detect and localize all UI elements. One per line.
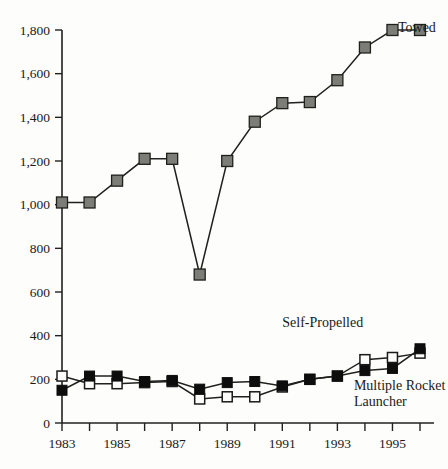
data-point-marker — [360, 366, 370, 376]
x-tick-label: 1985 — [104, 436, 131, 451]
data-point-marker — [250, 392, 260, 402]
chart-canvas: 02004006008001,0001,2001,4001,6001,800 1… — [0, 0, 448, 469]
y-tick-label: 1,000 — [20, 197, 51, 212]
x-tick-label: 1983 — [49, 436, 76, 451]
series-towed — [57, 25, 426, 281]
data-point-marker — [167, 375, 177, 385]
data-point-marker — [194, 269, 205, 280]
x-tick-label: 1989 — [214, 436, 241, 451]
data-point-marker — [332, 371, 342, 381]
data-point-marker — [304, 97, 315, 108]
data-point-marker — [195, 394, 205, 404]
data-point-marker — [140, 377, 150, 387]
y-axis: 02004006008001,0001,2001,4001,6001,800 — [20, 23, 62, 431]
y-tick-label: 400 — [30, 328, 51, 343]
data-point-marker — [57, 371, 67, 381]
y-tick-label: 800 — [30, 241, 51, 256]
x-tick-label: 1987 — [159, 436, 186, 451]
y-tick-label: 1,400 — [20, 110, 51, 125]
y-tick-label: 600 — [30, 285, 51, 300]
data-point-marker — [57, 385, 67, 395]
y-tick-label: 200 — [30, 372, 51, 387]
artillery-trend-chart: 02004006008001,0001,2001,4001,6001,800 1… — [0, 0, 448, 469]
data-point-marker — [57, 197, 68, 208]
x-tick-label: 1993 — [324, 436, 351, 451]
data-point-marker — [387, 25, 398, 36]
data-point-marker — [250, 377, 260, 387]
data-point-marker — [387, 353, 397, 363]
data-point-marker — [167, 153, 178, 164]
data-point-marker — [387, 363, 397, 373]
data-point-marker — [84, 197, 95, 208]
data-point-marker — [360, 355, 370, 365]
data-point-marker — [139, 153, 150, 164]
series-annotation-label: Self-Propelled — [282, 315, 363, 330]
data-point-marker — [112, 371, 122, 381]
data-point-marker — [112, 175, 123, 186]
data-point-marker — [277, 98, 288, 109]
series-annotation-label: Multiple Rocket — [354, 378, 445, 393]
data-point-marker — [305, 374, 315, 384]
series-line — [62, 30, 420, 275]
series-annotation-label: Launcher — [354, 394, 407, 409]
data-point-marker — [85, 371, 95, 381]
data-point-marker — [222, 378, 232, 388]
x-tick-label: 1991 — [269, 436, 296, 451]
y-tick-label: 0 — [43, 416, 50, 431]
data-point-marker — [277, 381, 287, 391]
data-point-marker — [359, 42, 370, 53]
y-tick-label: 1,600 — [20, 66, 51, 81]
y-tick-label: 1,800 — [20, 23, 51, 38]
data-point-marker — [222, 156, 233, 167]
x-axis: 1983198519871989199119931995 — [49, 423, 421, 451]
data-point-marker — [415, 344, 425, 354]
series-container — [57, 25, 426, 404]
data-point-marker — [249, 116, 260, 127]
data-point-marker — [222, 392, 232, 402]
data-point-marker — [195, 384, 205, 394]
data-point-marker — [332, 75, 343, 86]
x-tick-label: 1995 — [379, 436, 406, 451]
series-annotation-label: Towed — [398, 20, 436, 35]
y-tick-label: 1,200 — [20, 154, 51, 169]
